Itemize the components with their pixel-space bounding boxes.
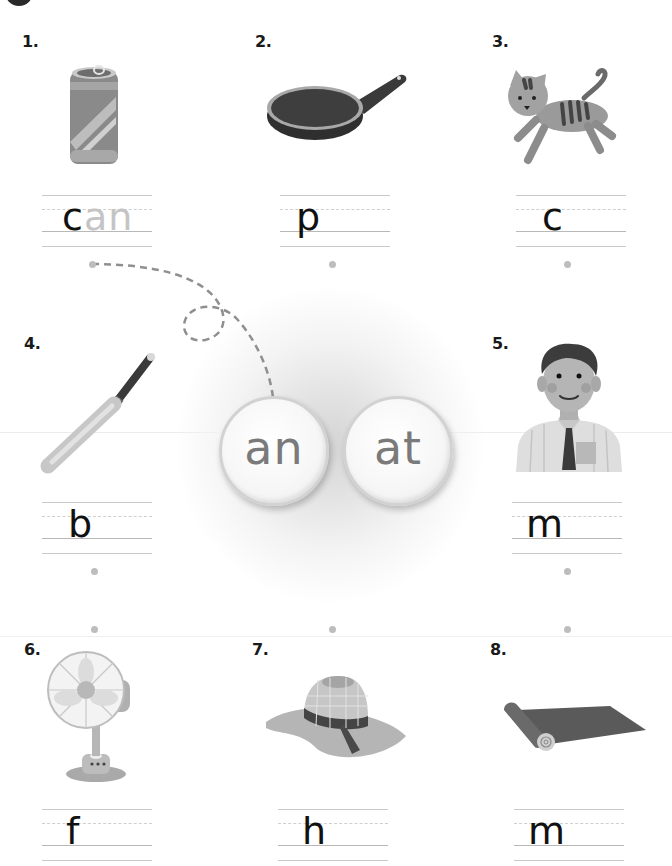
writing-lines[interactable]: h <box>278 809 388 863</box>
man-icon <box>514 342 624 474</box>
item-number: 5. <box>492 334 508 353</box>
match-dot[interactable] <box>564 568 571 575</box>
writing-lines[interactable]: p <box>280 195 390 249</box>
match-dot[interactable] <box>564 626 571 633</box>
writing-lines[interactable]: m <box>514 809 624 863</box>
soda-can-icon <box>68 62 122 168</box>
given-letter: c <box>62 195 84 239</box>
word-answer: m <box>514 814 624 848</box>
word-answer: h <box>278 814 388 848</box>
given-letter: m <box>528 809 566 853</box>
sun-hat-icon <box>264 676 408 772</box>
given-letter: p <box>296 195 321 239</box>
word-family-chip-at[interactable]: at <box>343 396 453 506</box>
match-dot[interactable] <box>329 626 336 633</box>
match-dot[interactable] <box>91 626 98 633</box>
word-answer: b <box>42 507 152 541</box>
given-letter: h <box>302 809 327 853</box>
match-dot[interactable] <box>91 568 98 575</box>
item-number: 1. <box>22 32 38 51</box>
writing-lines[interactable]: c <box>516 195 626 249</box>
frying-pan-icon <box>266 70 408 148</box>
writing-lines[interactable]: f <box>42 809 152 863</box>
item-number: 3. <box>492 32 508 51</box>
given-letter: b <box>68 502 93 546</box>
word-answer: p <box>280 200 390 234</box>
word-answer: m <box>512 507 622 541</box>
item-number: 2. <box>255 32 271 51</box>
word-family-chip-an[interactable]: an <box>219 396 329 506</box>
chip-label: at <box>374 421 422 475</box>
baseball-bat-icon <box>38 352 158 478</box>
cat-icon <box>500 68 625 172</box>
item-number: 8. <box>490 640 506 659</box>
chip-label: an <box>244 421 303 475</box>
rolled-mat-icon <box>500 696 648 756</box>
given-letter: f <box>66 809 80 853</box>
word-answer: can <box>42 200 152 234</box>
match-dot[interactable] <box>329 261 336 268</box>
trace-letters: an <box>84 195 133 239</box>
given-letter: c <box>542 195 564 239</box>
writing-lines[interactable]: can <box>42 195 152 249</box>
electric-fan-icon <box>48 646 140 784</box>
item-number: 4. <box>24 334 40 353</box>
item-number: 7. <box>252 640 268 659</box>
word-answer: c <box>516 200 626 234</box>
word-answer: f <box>42 814 152 848</box>
match-dot[interactable] <box>564 261 571 268</box>
item-number: 6. <box>24 640 40 659</box>
writing-lines[interactable]: b <box>42 502 152 556</box>
writing-lines[interactable]: m <box>512 502 622 556</box>
given-letter: m <box>526 502 564 546</box>
match-dot[interactable] <box>89 261 96 268</box>
